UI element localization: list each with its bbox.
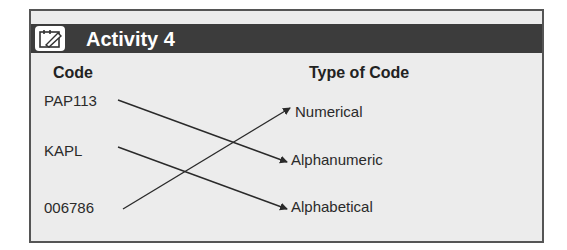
matching-arrows [0,0,567,250]
arrow-kapl-alphabetical [118,147,287,209]
arrow-pap113-alphanumeric [118,100,287,162]
